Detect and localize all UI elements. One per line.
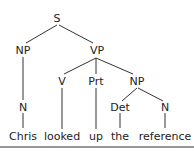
node-VP: VP (90, 45, 104, 56)
word-looked: looked (44, 131, 80, 142)
node-NP-object: NP (130, 76, 145, 87)
word-reference: reference (139, 131, 192, 142)
word-the: the (111, 131, 129, 142)
node-V: V (58, 76, 66, 87)
word-up: up (89, 131, 103, 142)
node-N-object: N (161, 102, 169, 113)
node-Det: Det (110, 102, 130, 113)
node-NP-subject: NP (16, 45, 31, 56)
node-S: S (54, 13, 61, 24)
node-N-subject: N (19, 102, 27, 113)
node-Prt: Prt (88, 76, 103, 87)
word-chris: Chris (9, 131, 37, 142)
